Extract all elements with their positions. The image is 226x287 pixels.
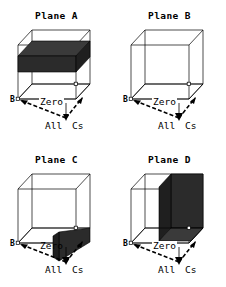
axis-label-cs-a: Cs <box>72 121 83 131</box>
panel-plane-b: Plane B <box>113 0 226 143</box>
node-marker-b-left <box>129 97 132 100</box>
axis-label-b-a: B <box>10 96 15 104</box>
zero-label-d: Zero <box>152 241 177 251</box>
axis-label-cs-b: Cs <box>185 121 196 131</box>
node-marker-d-right <box>187 226 190 229</box>
panel-grid: Plane A <box>0 0 226 287</box>
axis-label-all-b: All <box>158 121 175 131</box>
panel-plane-c: Plane C <box>0 144 113 287</box>
axis-label-all-d: All <box>158 265 175 275</box>
node-marker-c-right <box>74 226 77 229</box>
axis-label-cs-c: Cs <box>72 265 83 275</box>
node-marker-c-left <box>16 241 19 244</box>
shaded-plane-a <box>18 41 90 72</box>
node-marker-a-left <box>16 97 19 100</box>
cube-wireframe-b <box>131 30 203 99</box>
axis-label-b-b: B <box>123 96 128 104</box>
axis-label-b-c: B <box>10 240 15 248</box>
panel-plane-d: Plane D <box>113 144 226 287</box>
shaded-plane-d <box>159 174 203 241</box>
zero-label-a: Zero <box>39 97 64 107</box>
node-marker-b-right <box>187 82 190 85</box>
panel-plane-a: Plane A <box>0 0 113 143</box>
node-marker-d-left <box>129 241 132 244</box>
zero-label-c: Zero <box>39 241 64 251</box>
axis-label-cs-d: Cs <box>185 265 196 275</box>
node-marker-a-right <box>74 82 77 85</box>
axis-label-all-c: All <box>45 265 62 275</box>
axis-label-all-a: All <box>45 121 62 131</box>
zero-label-b: Zero <box>152 97 177 107</box>
axis-label-b-d: B <box>123 240 128 248</box>
